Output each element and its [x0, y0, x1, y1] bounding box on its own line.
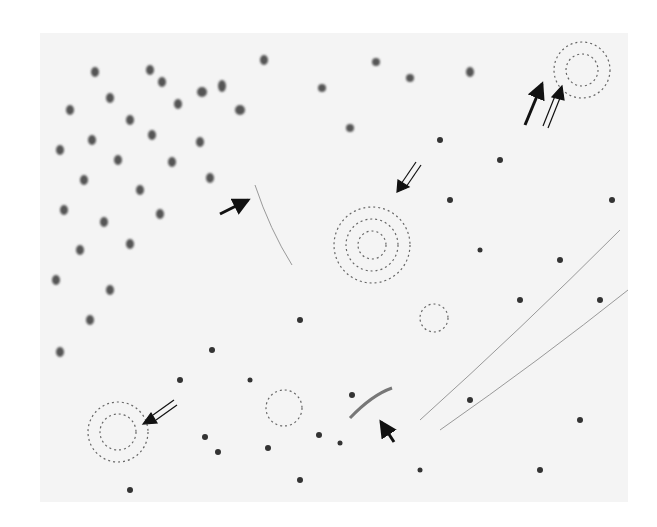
micrograph: [40, 33, 628, 502]
tissue-canvas: [40, 33, 628, 502]
